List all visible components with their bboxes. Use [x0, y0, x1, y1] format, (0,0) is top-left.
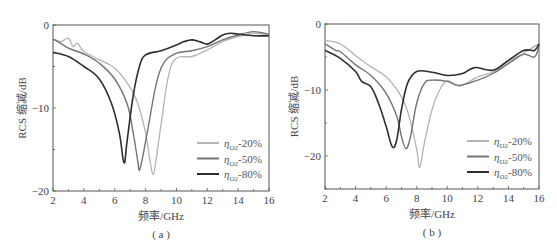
x-tick-label: 14 — [233, 194, 245, 206]
y-tick-label: −10 — [32, 102, 50, 114]
x-tick-label: 14 — [503, 192, 515, 204]
y-tick-label: −10 — [304, 84, 322, 96]
y-axis-title: RCS 缩减/dB — [288, 76, 300, 137]
x-tick-label: 2 — [322, 192, 328, 204]
x-tick-label: 10 — [171, 194, 183, 206]
legend-item: ηO2-20% — [197, 137, 262, 152]
y-tick-label: −20 — [32, 185, 50, 197]
y-tick-label: 0 — [44, 19, 50, 31]
chart-panel-a: 2468101214160−10−20频率/GHzRCS 缩减/dB( a )η… — [16, 19, 275, 241]
x-tick-label: 6 — [383, 192, 389, 204]
legend-label: ηO2-20% — [494, 135, 532, 150]
legend-label: ηO2-80% — [224, 168, 262, 183]
x-tick-label: 4 — [353, 192, 359, 204]
legend-item: ηO2-80% — [467, 166, 532, 181]
legend-item: ηO2-20% — [467, 135, 532, 150]
panel-caption: ( b ) — [423, 226, 442, 239]
legend-label: ηO2-50% — [494, 151, 532, 166]
x-tick-label: 8 — [143, 194, 149, 206]
x-tick-label: 12 — [202, 194, 213, 206]
y-tick-label: −20 — [304, 150, 322, 162]
series-line — [325, 44, 539, 148]
panel-caption: ( a ) — [152, 228, 170, 241]
x-tick-label: 4 — [81, 194, 87, 206]
x-tick-label: 16 — [534, 192, 546, 204]
legend-item: ηO2-50% — [467, 151, 532, 166]
x-tick-label: 2 — [50, 194, 56, 206]
chart-canvas: 2468101214160−10−20频率/GHzRCS 缩减/dB( a )η… — [0, 0, 557, 251]
legend-item: ηO2-50% — [197, 153, 262, 168]
x-axis-title: 频率/GHz — [409, 207, 455, 220]
x-tick-label: 8 — [414, 192, 420, 204]
x-tick-label: 10 — [442, 192, 454, 204]
legend-label: ηO2-80% — [494, 166, 532, 181]
legend-label: ηO2-20% — [224, 137, 262, 152]
x-axis-title: 频率/GHz — [138, 209, 184, 222]
x-tick-label: 6 — [112, 194, 118, 206]
x-tick-label: 12 — [472, 192, 483, 204]
legend-item: ηO2-80% — [197, 168, 262, 183]
y-tick-label: 0 — [316, 18, 322, 30]
series-line — [325, 44, 539, 149]
legend-label: ηO2-50% — [224, 153, 262, 168]
chart-panel-b: 2468101214160−10−20频率/GHzRCS 缩减/dB( b )η… — [288, 18, 545, 239]
y-axis-title: RCS 缩减/dB — [16, 77, 28, 138]
x-tick-label: 16 — [264, 194, 276, 206]
